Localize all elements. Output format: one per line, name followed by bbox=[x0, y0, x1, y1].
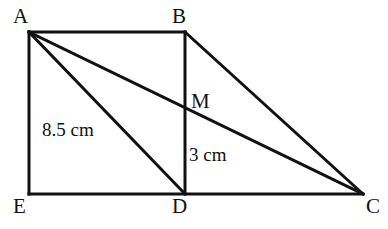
vertex-label-d: D bbox=[172, 196, 187, 217]
geometry-figure: A B C D E M 8.5 cm 3 cm bbox=[0, 0, 388, 229]
measurement-label-md: 3 cm bbox=[189, 145, 226, 164]
vertex-label-m: M bbox=[191, 91, 210, 112]
vertex-label-c: C bbox=[366, 196, 380, 217]
segment-BC bbox=[185, 32, 363, 194]
segment-AC bbox=[29, 32, 363, 194]
geometry-canvas bbox=[0, 0, 388, 229]
vertex-label-b: B bbox=[172, 6, 186, 27]
vertex-label-e: E bbox=[13, 196, 26, 217]
vertex-label-a: A bbox=[13, 6, 28, 27]
measurement-label-ad: 8.5 cm bbox=[42, 120, 94, 139]
segment-AD bbox=[29, 32, 185, 194]
